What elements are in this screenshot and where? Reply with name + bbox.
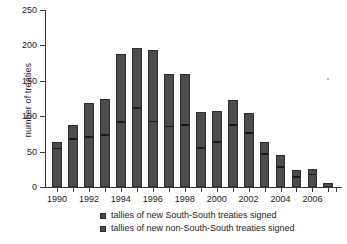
legend-item-non-south-south: tallies of new non-South-South treaties … bbox=[100, 222, 295, 235]
x-axis-tick bbox=[265, 188, 266, 192]
x-axis-tick bbox=[328, 188, 329, 192]
bar-1999 bbox=[196, 112, 206, 187]
bar-segment-divider bbox=[117, 121, 125, 123]
plot-area bbox=[45, 10, 341, 187]
bar-segment-divider bbox=[213, 141, 221, 143]
bar-segment-divider bbox=[181, 124, 189, 126]
x-axis-tick bbox=[281, 188, 282, 192]
legend-label: tallies of new South-South treaties sign… bbox=[111, 209, 277, 222]
y-axis-tick-label: 100 bbox=[7, 112, 37, 121]
y-axis-tick-label: 0 bbox=[7, 183, 37, 192]
y-axis-tick-label: 50 bbox=[7, 148, 37, 157]
x-axis-tick bbox=[137, 188, 138, 192]
x-axis-tick bbox=[153, 188, 154, 192]
bar-segment-divider bbox=[149, 121, 157, 123]
x-axis-tick bbox=[233, 188, 234, 192]
y-axis-tick-label: 150 bbox=[7, 77, 37, 86]
x-axis-tick bbox=[105, 188, 106, 192]
bar-segment-divider bbox=[53, 148, 61, 150]
bar-2000 bbox=[212, 111, 222, 187]
bar-segment-divider bbox=[277, 166, 285, 168]
bar-segment-divider bbox=[261, 153, 269, 155]
bar-2001 bbox=[228, 100, 238, 187]
bar-segment-divider bbox=[245, 132, 253, 134]
bar-1998 bbox=[180, 74, 190, 187]
bar-1993 bbox=[100, 99, 110, 188]
x-axis-tick bbox=[312, 188, 313, 192]
x-axis-tick bbox=[169, 188, 170, 192]
bar-2007 bbox=[323, 183, 333, 187]
bar-1991 bbox=[68, 125, 78, 187]
bar-2006 bbox=[308, 169, 318, 187]
x-axis-tick bbox=[201, 188, 202, 192]
bar-1997 bbox=[164, 74, 174, 187]
x-axis-tick bbox=[121, 188, 122, 192]
treaties-bar-chart: number of treaties 050100150200250 19901… bbox=[0, 0, 347, 244]
bar-segment-divider bbox=[85, 136, 93, 138]
bar-2005 bbox=[292, 170, 302, 187]
bar-1996 bbox=[148, 50, 158, 187]
x-axis-tick bbox=[57, 188, 58, 192]
bar-segment-divider bbox=[197, 147, 205, 149]
legend-item-south-south: tallies of new South-South treaties sign… bbox=[100, 209, 295, 222]
x-axis-tick bbox=[217, 188, 218, 192]
x-axis-tick bbox=[89, 188, 90, 192]
x-axis-tick bbox=[185, 188, 186, 192]
x-axis-tick bbox=[249, 188, 250, 192]
bar-segment-divider bbox=[293, 176, 301, 178]
bar-segment-divider bbox=[133, 107, 141, 109]
x-axis-tick bbox=[336, 188, 337, 192]
x-axis-tick-label: 2006 bbox=[292, 194, 332, 204]
bar-2004 bbox=[276, 155, 286, 187]
y-axis-tick-label: 200 bbox=[7, 41, 37, 50]
bar-1992 bbox=[84, 103, 94, 187]
y-axis-tick bbox=[40, 187, 45, 188]
x-axis-tick bbox=[296, 188, 297, 192]
bar-1990 bbox=[52, 142, 62, 187]
x-axis-tick bbox=[73, 188, 74, 192]
legend-swatch-icon bbox=[100, 213, 106, 219]
bar-segment-divider bbox=[69, 138, 77, 140]
legend-label: tallies of new non-South-South treaties … bbox=[111, 222, 295, 235]
bar-segment-divider bbox=[165, 126, 173, 128]
scan-speck bbox=[327, 78, 329, 80]
chart-legend: tallies of new South-South treaties sign… bbox=[100, 209, 295, 235]
bar-2003 bbox=[260, 142, 270, 187]
bar-segment-divider bbox=[309, 174, 317, 176]
bar-1994 bbox=[116, 54, 126, 187]
bar-1995 bbox=[132, 48, 142, 187]
y-axis-tick-label: 250 bbox=[7, 6, 37, 15]
bar-segment-divider bbox=[101, 134, 109, 136]
legend-swatch-icon bbox=[100, 226, 106, 232]
bar-segment-divider bbox=[229, 124, 237, 126]
bar-2002 bbox=[244, 113, 254, 187]
